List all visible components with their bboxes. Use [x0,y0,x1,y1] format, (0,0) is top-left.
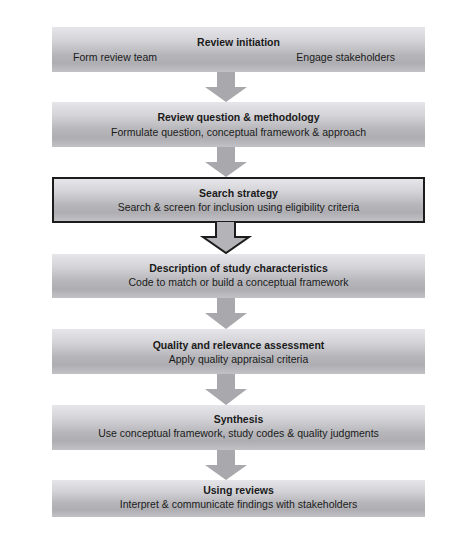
down-arrow-icon [0,0,452,550]
step-subtitle: Interpret & communicate findings with st… [52,498,425,511]
step-using-reviews: Using reviews Interpret & communicate fi… [52,480,425,517]
step-title: Using reviews [52,484,425,497]
flowchart: Review initiation Form review team Engag… [0,0,452,550]
